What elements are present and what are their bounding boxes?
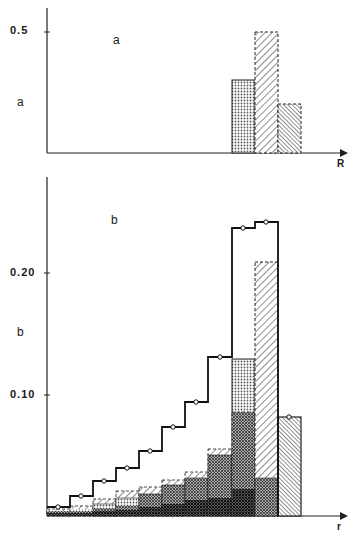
y-tick-0.5: 0.5 bbox=[10, 24, 28, 36]
panel-a bbox=[44, 8, 348, 157]
panel-b-ylabel: b bbox=[17, 325, 24, 339]
arrow-icon bbox=[340, 149, 348, 157]
arrow-icon bbox=[340, 512, 348, 520]
y-tick-0.20: 0.20 bbox=[10, 266, 35, 278]
panel-b-xlabel: r bbox=[337, 521, 341, 532]
bar-dense-a bbox=[278, 104, 301, 153]
panel-a-label: a bbox=[113, 33, 120, 47]
stacked-bars bbox=[47, 262, 301, 516]
panel-a-xlabel: R bbox=[337, 158, 344, 169]
panel-b-label: b bbox=[111, 213, 118, 227]
bar-hatched-a bbox=[255, 32, 278, 153]
chart-canvas bbox=[0, 0, 354, 533]
panel-a-ylabel: a bbox=[17, 95, 24, 109]
bar-dotted-a bbox=[232, 80, 255, 153]
panel-b bbox=[44, 177, 348, 520]
y-tick-0.10: 0.10 bbox=[10, 388, 35, 400]
